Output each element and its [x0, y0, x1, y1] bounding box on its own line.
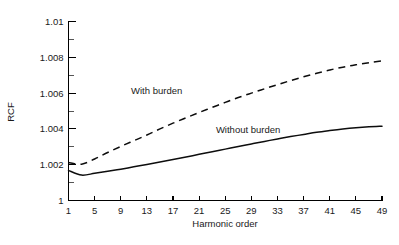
y-tick-label: 1.004 — [40, 123, 64, 134]
x-tick-label: 13 — [142, 205, 153, 216]
x-tick-label: 5 — [92, 205, 97, 216]
chart-plot-svg: 11.0021.0041.0061.0081.01 15913172125293… — [0, 0, 399, 245]
x-axis-major-ticks — [69, 196, 383, 201]
x-tick-label: 41 — [324, 205, 335, 216]
x-tick-label: 33 — [272, 205, 283, 216]
x-tick-label: 21 — [194, 205, 205, 216]
chart-figure: 11.0021.0041.0061.0081.01 15913172125293… — [0, 0, 399, 245]
y-tick-label: 1.008 — [40, 52, 64, 63]
x-tick-label: 37 — [298, 205, 309, 216]
y-axis-title: RCF — [5, 102, 16, 122]
x-tick-label: 1 — [66, 205, 71, 216]
x-axis-title: Harmonic order — [192, 218, 257, 229]
x-tick-label: 25 — [220, 205, 231, 216]
x-tick-label: 17 — [168, 205, 179, 216]
x-tick-label: 49 — [377, 205, 388, 216]
x-tick-label: 9 — [118, 205, 123, 216]
y-axis-minor-ticks — [69, 39, 74, 182]
y-axis-tick-labels: 11.0021.0041.0061.0081.01 — [40, 16, 64, 206]
x-axis-tick-labels: 15913172125293337414549 — [66, 205, 387, 216]
x-tick-label: 29 — [246, 205, 257, 216]
chart-series-group — [69, 61, 383, 175]
y-tick-label: 1.002 — [40, 159, 64, 170]
y-tick-label: 1.01 — [45, 16, 64, 27]
series-annotation: With burden — [131, 85, 182, 96]
series-annotation: Without burden — [216, 124, 280, 135]
y-tick-label: 1.006 — [40, 88, 64, 99]
y-tick-label: 1 — [58, 195, 63, 206]
x-tick-label: 45 — [351, 205, 362, 216]
